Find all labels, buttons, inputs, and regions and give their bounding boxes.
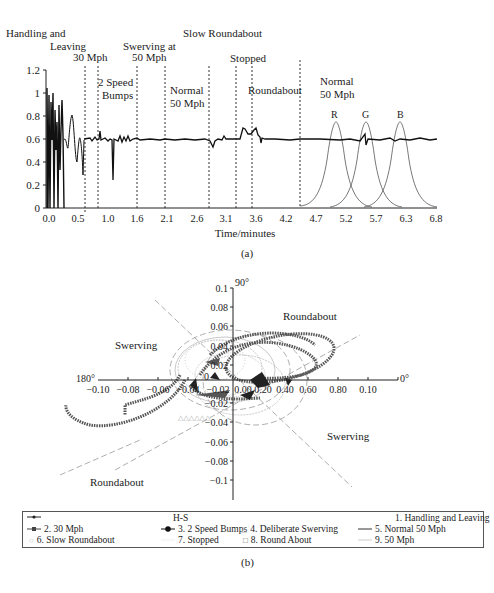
triangle-marker-icon: △ [241,525,247,534]
svg-text:0.06: 0.06 [211,321,229,332]
legend-label-6: 6. Slow Roundabout [37,535,115,545]
svg-text:−0.04: −0.04 [205,417,228,428]
svg-text:0.60: 0.60 [299,384,317,395]
svg-text:0.08: 0.08 [211,302,229,313]
legend-item-6: ○ 6. Slow Roundabout [29,535,115,545]
x-tick-labels-b: −0.10 −0.08 −0.06 −0.04 −0.02 0.00 0.20 … [86,384,376,395]
square-marker-icon: □ [243,536,248,545]
svg-text:0.80: 0.80 [329,384,347,395]
legend-item-5: 5. Normal 50 Mph [358,524,446,534]
svg-text:0.02: 0.02 [211,360,229,371]
line-square-marker-icon [27,525,41,533]
circle-marker-icon: ○ [29,536,34,545]
legend-item-7: 7. Stopped [161,535,219,545]
svg-text:Swerving: Swerving [327,430,370,442]
scatter-chart-b: △△△△△△ 0.1 0.08 0.06 0.04 0.02 0 −0.02 −… [0,0,494,593]
svg-text:−0.06: −0.06 [146,384,169,395]
legend-item-3: 3. 2 Speed Bumps [161,524,247,534]
line-dot-marker-icon [27,513,41,521]
legend-label-5: 5. Normal 50 Mph [375,524,446,534]
legend-item-8: □ 8. Round About [243,535,311,545]
svg-text:0.40: 0.40 [276,384,294,395]
legend-label-3: 3. 2 Speed Bumps [178,524,247,534]
svg-text:−0.06: −0.06 [205,437,228,448]
svg-text:90°: 90° [235,277,249,288]
svg-text:−0.1: −0.1 [210,475,228,486]
legend-label-9: 9. 50 Mph [375,535,414,545]
svg-text:−0.02: −0.02 [206,384,229,395]
svg-text:0°: 0° [400,373,409,384]
svg-text:Roundabout: Roundabout [283,310,337,322]
legend-label-2: 2. 30 Mph [44,524,83,534]
faint-line-marker-icon [161,536,175,544]
legend-item-9: 9. 50 Mph [358,535,414,545]
legend-item-2: 2. 30 Mph [27,524,83,534]
svg-text:−0.04: −0.04 [176,384,199,395]
svg-text:Roundabout: Roundabout [90,476,144,488]
svg-text:0.1: 0.1 [216,283,229,294]
legend-label-7: 7. Stopped [178,535,219,545]
legend-box: H-S 1. Handling and Leaving 2. 30 Mph 3.… [22,511,484,548]
legend-label-4: 4. Deliberate Swerving [250,524,338,534]
legend-item-4: △ 4. Deliberate Swerving [241,524,338,534]
legend-item-handling [27,513,41,521]
legend-label-1: 1. Handling and Leaving [395,513,489,523]
legend-title: H-S [173,513,188,523]
caption-b: (b) [241,556,254,568]
svg-text:−0.10: −0.10 [86,384,109,395]
svg-text:−0.08: −0.08 [205,456,228,467]
svg-text:−0.02: −0.02 [205,398,228,409]
svg-text:0.04: 0.04 [211,341,229,352]
svg-text:0.20: 0.20 [254,384,272,395]
line-big-dot-marker-icon [161,525,175,533]
svg-text:−0.08: −0.08 [116,384,139,395]
light-line-marker-icon [358,536,372,544]
legend-label-8: 8. Round About [251,535,311,545]
svg-text:0.00: 0.00 [234,384,252,395]
svg-text:0: 0 [204,371,209,382]
svg-text:180°: 180° [76,373,95,384]
svg-text:0.10: 0.10 [359,384,377,395]
svg-text:Swerving: Swerving [115,339,158,351]
angle-labels: 90° 180° 0° [76,277,409,384]
thin-line-marker-icon [358,525,372,533]
